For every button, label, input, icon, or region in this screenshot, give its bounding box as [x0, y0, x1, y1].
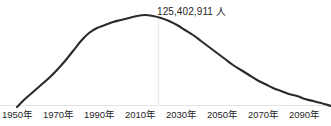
- x-tick-label-1990: 1990年: [84, 108, 115, 122]
- x-tick-label-2030: 2030年: [166, 108, 197, 122]
- x-tick-label-1950: 1950年: [2, 108, 33, 122]
- x-tick-label-2010: 2010年: [125, 108, 156, 122]
- x-tick-label-2050: 2050年: [207, 108, 238, 122]
- population-line-series: [17, 15, 331, 107]
- peak-value-annotation: 125,402,911 人: [157, 5, 226, 18]
- population-projection-chart: 125,402,911 人 1950年1970年1990年2010年2030年2…: [0, 0, 331, 126]
- x-tick-label-2070: 2070年: [248, 108, 279, 122]
- x-tick-label-2090: 2090年: [289, 108, 320, 122]
- x-axis-tick-label-group: 1950年1970年1990年2010年2030年2050年2070年2090年: [0, 108, 331, 124]
- x-tick-label-1970: 1970年: [43, 108, 74, 122]
